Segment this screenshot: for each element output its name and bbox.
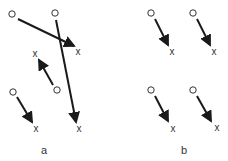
target-x-marker: x <box>33 48 38 59</box>
target-x-marker: x <box>215 122 220 133</box>
target-x-marker: x <box>77 123 82 134</box>
panel-label: a <box>41 144 48 156</box>
vector-pair: x <box>190 10 217 57</box>
target-x-marker: x <box>34 123 39 134</box>
panel-label: b <box>181 144 187 156</box>
vector-pair: x <box>10 89 39 134</box>
arrow-icon <box>39 60 53 85</box>
target-x-marker: x <box>170 46 175 57</box>
arrow-icon <box>56 20 76 122</box>
vector-pair: x <box>33 48 61 94</box>
panel-b: xxxxb <box>148 10 220 156</box>
vector-pair: x <box>9 11 81 57</box>
target-x-marker: x <box>171 123 176 134</box>
arrow-icon <box>197 96 211 121</box>
vector-pair: x <box>190 87 220 133</box>
origin-circle-icon <box>10 89 16 95</box>
origin-circle-icon <box>190 87 196 93</box>
origin-circle-icon <box>54 87 60 93</box>
target-x-marker: x <box>212 46 217 57</box>
origin-circle-icon <box>52 10 58 16</box>
vector-pair: x <box>52 10 82 134</box>
origin-circle-icon <box>190 10 196 16</box>
origin-circle-icon <box>148 10 154 16</box>
arrow-icon <box>18 19 74 46</box>
arrow-icon <box>17 97 32 122</box>
origin-circle-icon <box>9 11 15 17</box>
vector-pair: x <box>148 87 176 134</box>
arrow-icon <box>155 19 168 45</box>
origin-circle-icon <box>148 87 154 93</box>
arrow-icon <box>155 96 168 121</box>
arrow-icon <box>197 19 210 45</box>
diagram-canvas: xxxxa xxxxb <box>0 0 228 161</box>
panel-a: xxxxa <box>9 10 82 156</box>
vector-pair: x <box>148 10 175 57</box>
target-x-marker: x <box>76 46 81 57</box>
